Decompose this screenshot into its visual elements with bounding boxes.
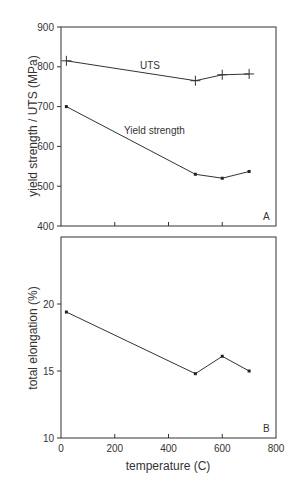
panel-b-series bbox=[65, 311, 251, 376]
uts-label: UTS bbox=[140, 60, 160, 71]
panel-b-frame bbox=[61, 237, 276, 438]
y-axis-label-bottom: total elongation (%) bbox=[26, 286, 40, 389]
y-tick-label: 400 bbox=[37, 221, 54, 232]
dot-marker bbox=[221, 355, 224, 358]
dot-marker bbox=[194, 372, 197, 375]
dot-marker bbox=[248, 170, 251, 173]
y-axis-label-top: yield strength / UTS (MPa) bbox=[26, 55, 40, 196]
y-tick-label: 15 bbox=[43, 366, 55, 377]
figure: 400500600700800900 UTS Yield strength A … bbox=[0, 0, 297, 486]
dot-marker bbox=[221, 177, 224, 180]
x-tick-label: 800 bbox=[268, 443, 285, 454]
series-line bbox=[66, 107, 249, 179]
x-tick-label: 400 bbox=[160, 443, 177, 454]
yield-strength-label: Yield strength bbox=[124, 125, 185, 136]
y-tick-label: 900 bbox=[37, 22, 54, 33]
dot-marker bbox=[65, 105, 68, 108]
x-tick-label: 200 bbox=[106, 443, 123, 454]
x-tick-label: 0 bbox=[58, 443, 64, 454]
y-tick-label: 10 bbox=[43, 433, 55, 444]
series-line bbox=[66, 312, 249, 374]
y-tick-label: 20 bbox=[43, 299, 55, 310]
panel-b-ticks: 1015200200400600800 bbox=[43, 299, 285, 455]
panel-a-label: A bbox=[263, 211, 270, 222]
dot-marker bbox=[194, 173, 197, 176]
dot-marker bbox=[65, 311, 68, 314]
dot-marker bbox=[248, 370, 251, 373]
x-tick-label: 600 bbox=[214, 443, 231, 454]
panel-a-series bbox=[61, 56, 254, 180]
x-axis-label: temperature (C) bbox=[126, 459, 211, 473]
panel-b-label: B bbox=[263, 423, 270, 434]
